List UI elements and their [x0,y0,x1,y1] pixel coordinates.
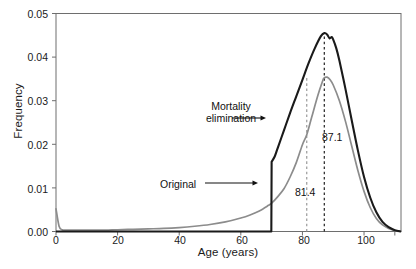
data-curves [56,33,401,231]
annotation-arrows [205,115,266,185]
axis-frame [56,14,401,232]
plot-area [0,0,416,269]
chart-figure: Frequency Age (years) 0.05 0.04 0.03 0.0… [0,0,416,269]
tick-marks [52,14,395,236]
